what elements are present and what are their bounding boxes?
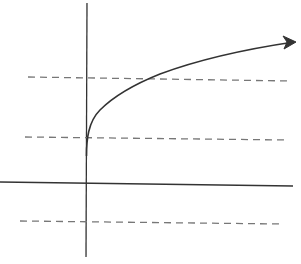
- increasing-curve: [87, 42, 295, 156]
- x-axis: [0, 182, 293, 186]
- arrowhead-icon: [283, 36, 296, 49]
- graph-canvas: [0, 0, 301, 264]
- dashed-reference-line-middle: [25, 137, 287, 140]
- y-axis: [86, 3, 87, 257]
- dashed-reference-line-lower: [20, 221, 282, 224]
- dashed-reference-line-upper: [28, 77, 290, 81]
